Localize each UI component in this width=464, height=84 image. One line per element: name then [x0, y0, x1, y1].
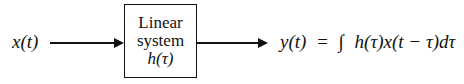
input-arrowhead-icon: [114, 38, 124, 48]
convolution-expression: h(τ)x(t − τ)dτ: [355, 31, 456, 52]
output-arrowhead-icon: [258, 38, 268, 48]
output-arrow-line: [197, 42, 259, 44]
linear-system-block: Linear system h(τ): [124, 4, 197, 78]
system-label-line2: system: [137, 32, 184, 50]
impulse-response-label: h(τ): [148, 50, 174, 68]
system-label-line1: Linear: [138, 14, 182, 32]
output-signal-label: y(t): [280, 31, 306, 52]
output-equation: y(t) = ∫ h(τ)x(t − τ)dτ: [280, 31, 455, 53]
equals-sign: =: [317, 31, 328, 52]
input-signal-label: x(t): [12, 31, 38, 53]
integral-sign: ∫: [339, 31, 344, 52]
input-arrow-line: [50, 42, 116, 44]
